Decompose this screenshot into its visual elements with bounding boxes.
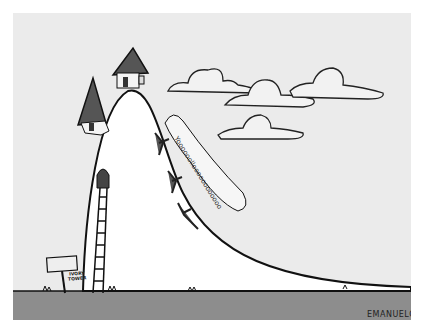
clouds	[168, 68, 383, 139]
sign-label: IVORY TOWER	[62, 270, 93, 282]
cartoon-panel: Yoooooolloooooooooooo IVORY TOWER EMANUE…	[13, 13, 411, 320]
top-tower	[113, 48, 148, 88]
artist-signature: EMANUELCO	[367, 310, 411, 319]
ground	[13, 291, 411, 320]
tower-door	[97, 169, 109, 188]
small-tower	[78, 78, 109, 135]
